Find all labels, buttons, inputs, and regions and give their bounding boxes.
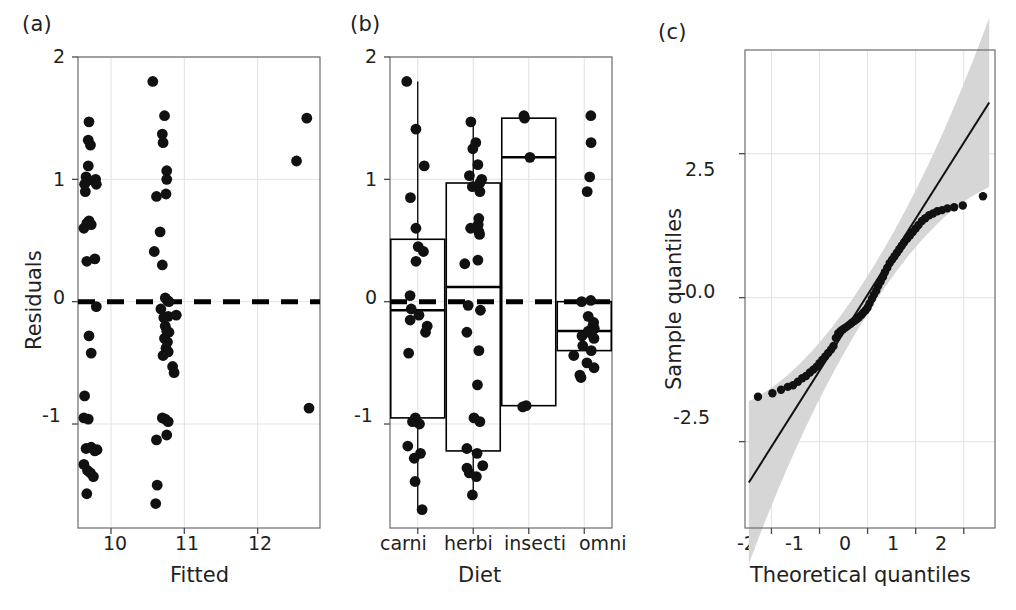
data-point xyxy=(475,416,486,427)
data-point xyxy=(89,253,100,264)
data-point xyxy=(91,179,102,190)
data-point xyxy=(147,76,158,87)
data-point xyxy=(474,186,485,197)
data-point xyxy=(589,333,600,344)
panel-a-gridlines xyxy=(78,57,320,528)
data-point xyxy=(950,203,958,211)
data-point xyxy=(768,389,776,397)
data-point xyxy=(754,392,762,400)
data-point xyxy=(472,379,483,390)
data-point xyxy=(411,124,422,135)
data-point xyxy=(525,152,536,163)
data-point xyxy=(585,295,596,306)
data-point xyxy=(474,229,485,240)
data-point xyxy=(464,170,475,181)
data-point xyxy=(472,448,483,459)
panel-c-reference-line xyxy=(749,102,989,482)
data-point xyxy=(401,76,412,87)
panel-b-boxplots xyxy=(391,81,612,509)
panel-c-qq-plot: (c) Sample quantiles Theoretical quantil… xyxy=(640,0,1016,610)
data-point xyxy=(291,156,302,167)
data-point xyxy=(586,345,597,356)
data-point xyxy=(409,453,420,464)
data-point xyxy=(473,345,484,356)
data-point xyxy=(149,246,160,257)
data-point xyxy=(411,256,422,267)
data-point xyxy=(80,186,91,197)
data-point xyxy=(405,192,416,203)
data-point xyxy=(81,488,92,499)
data-point xyxy=(576,372,587,383)
data-point xyxy=(979,192,987,200)
data-point xyxy=(414,419,425,430)
data-point xyxy=(477,460,488,471)
data-point xyxy=(159,110,170,121)
data-point xyxy=(418,246,429,257)
data-point xyxy=(420,327,431,338)
data-point xyxy=(586,137,597,148)
data-point xyxy=(467,143,478,154)
data-point xyxy=(164,296,175,307)
data-point xyxy=(169,367,180,378)
data-point xyxy=(79,390,90,401)
data-point xyxy=(91,301,102,312)
data-point xyxy=(171,310,182,321)
figure-three-panel-diagnostics: (a) Residuals Fitted 2 1 0 -1 10 11 12 (… xyxy=(0,0,1016,610)
panel-a-residuals-vs-fitted: (a) Residuals Fitted 2 1 0 -1 10 11 12 xyxy=(0,0,340,610)
data-point xyxy=(403,348,414,359)
data-point xyxy=(161,189,172,200)
data-point xyxy=(419,160,430,171)
panel-a-plot-area xyxy=(0,0,340,610)
data-point xyxy=(301,113,312,124)
data-point xyxy=(465,116,476,127)
data-point xyxy=(577,331,588,342)
data-point xyxy=(152,480,163,491)
data-point xyxy=(155,227,166,238)
data-point xyxy=(584,171,595,182)
data-point xyxy=(576,296,587,307)
data-point xyxy=(83,414,94,425)
data-point xyxy=(589,362,600,373)
data-point xyxy=(405,290,416,301)
data-point xyxy=(517,401,528,412)
data-point xyxy=(85,140,96,151)
data-point xyxy=(151,191,162,202)
data-point xyxy=(161,430,172,441)
data-point xyxy=(304,403,315,414)
data-point xyxy=(472,159,483,170)
panel-b-residuals-by-diet: (b) Diet 2 1 0 -1 carni herbi insecti om… xyxy=(340,0,640,610)
data-point xyxy=(158,350,169,361)
data-point xyxy=(475,305,486,316)
panel-a-data-points xyxy=(78,76,314,509)
data-point xyxy=(829,342,837,350)
data-point xyxy=(163,416,174,427)
data-point xyxy=(151,435,162,446)
data-point xyxy=(585,110,596,121)
data-point xyxy=(463,300,474,311)
data-point xyxy=(84,116,95,127)
panel-c-plot-area xyxy=(640,0,1016,610)
data-point xyxy=(92,444,103,455)
data-point xyxy=(568,350,579,361)
data-point xyxy=(78,223,89,234)
data-point xyxy=(88,471,99,482)
data-point xyxy=(150,498,161,509)
data-point xyxy=(473,255,484,266)
data-point xyxy=(582,186,593,197)
panel-b-plot-area xyxy=(340,0,640,610)
data-point xyxy=(83,160,94,171)
data-point xyxy=(405,315,416,326)
data-point xyxy=(410,476,421,487)
data-point xyxy=(402,441,413,452)
data-point xyxy=(161,174,172,185)
data-point xyxy=(158,137,169,148)
panel-a-frame xyxy=(78,57,320,528)
data-point xyxy=(411,223,422,234)
data-point xyxy=(471,471,482,482)
data-point xyxy=(459,258,470,269)
data-point xyxy=(519,110,530,121)
data-point xyxy=(959,201,967,209)
data-point xyxy=(84,331,95,342)
data-point xyxy=(417,504,428,515)
data-point xyxy=(86,348,97,359)
